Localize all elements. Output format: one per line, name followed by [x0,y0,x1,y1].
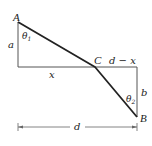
side-a-label: a [8,39,14,50]
dimension-arrow-left [18,126,23,129]
theta2-label: θ2 [126,94,135,105]
theta1-label: θ1 [22,31,31,42]
dimension-arrow-right [132,126,137,129]
dimension-d-label: d [74,121,80,132]
side-b-label: b [141,87,147,98]
segment-d-minus-x-label: d − x [109,55,136,66]
path-a-c-b [18,22,137,117]
point-c-label: C [94,54,102,66]
point-a-label: A [12,11,20,23]
path-diagram: A a θ1 x C d − x b θ2 B d [0,0,152,146]
segment-x-label: x [49,69,55,80]
point-b-label: B [140,112,147,124]
